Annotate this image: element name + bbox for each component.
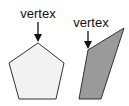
- quadrilateral-shape: [79, 28, 124, 99]
- pentagon-arrowhead-icon: [34, 34, 42, 42]
- pentagon-figure: vertex: [9, 6, 64, 99]
- quadrilateral-figure: vertex: [73, 15, 124, 99]
- quad-vertex-label: vertex: [73, 15, 109, 30]
- pentagon-vertex-label: vertex: [20, 6, 56, 21]
- vertex-diagram: vertex vertex: [0, 0, 129, 106]
- pentagon-shape: [9, 43, 64, 99]
